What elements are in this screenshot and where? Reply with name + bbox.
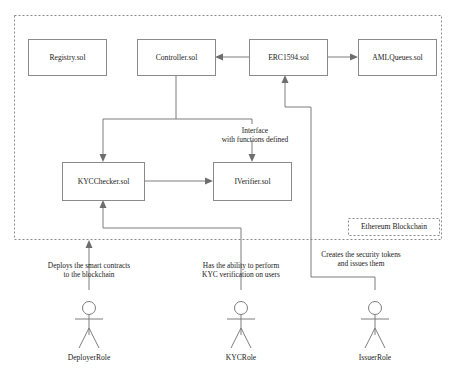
edge-label-deployer-line2: to the blockchain	[64, 270, 115, 279]
node-erc1594[interactable]: ERC1594.sol	[250, 40, 328, 76]
node-kycchecker-label: KYCChecker.sol	[78, 177, 130, 186]
edge-label-kycrole: Has the ability to perform KYC verificat…	[202, 261, 280, 279]
connector-erc1594-to-controller	[215, 54, 249, 61]
node-kycchecker[interactable]: KYCChecker.sol	[63, 163, 145, 201]
actor-kyc-label: KYCRole	[226, 353, 257, 362]
edge-label-interface-line2: with functions defined	[222, 135, 289, 144]
node-erc1594-label: ERC1594.sol	[268, 53, 309, 62]
node-controller[interactable]: Controller.sol	[138, 40, 216, 76]
node-controller-label: Controller.sol	[156, 53, 198, 62]
edge-label-issuer-line2: and issues them	[338, 259, 385, 268]
actor-issuer-role[interactable]: IssuerRole	[359, 302, 392, 362]
actor-issuer-head	[369, 302, 382, 315]
connector-erc1594-to-amlqueues	[327, 54, 358, 61]
node-iverifier[interactable]: IVerifier.sol	[214, 163, 292, 201]
node-iverifier-label: IVerifier.sol	[234, 177, 270, 186]
connector-controller-bus	[100, 75, 256, 162]
node-registry-label: Registry.sol	[50, 53, 86, 62]
diagram-canvas: Ethereum Blockchain	[0, 0, 455, 372]
actor-issuer-label: IssuerRole	[359, 353, 392, 362]
edge-label-deployer-line1: Deploys the smart contracts	[48, 261, 130, 270]
architecture-diagram: Ethereum Blockchain	[0, 0, 455, 372]
actor-deployer-label: DeployerRole	[68, 353, 111, 362]
actor-deployer-head	[83, 302, 96, 315]
edge-label-deployer: Deploys the smart contracts to the block…	[48, 261, 130, 279]
node-amlqueues-label: AMLQueues.sol	[372, 53, 422, 62]
edge-label-kycrole-line2: KYC verification on users	[202, 270, 280, 279]
actor-kyc-role[interactable]: KYCRole	[226, 302, 257, 362]
node-registry[interactable]: Registry.sol	[29, 40, 107, 76]
actor-deployer-role[interactable]: DeployerRole	[68, 302, 111, 362]
edge-label-issuer: Creates the security tokens and issues t…	[321, 250, 401, 268]
ethereum-blockchain-tag-label: Ethereum Blockchain	[361, 222, 427, 231]
node-amlqueues[interactable]: AMLQueues.sol	[359, 40, 437, 76]
connector-kycchecker-to-iverifier	[144, 178, 213, 185]
edge-label-interface-line1: Interface	[242, 126, 269, 135]
edge-label-interface: Interface with functions defined	[222, 126, 289, 144]
edge-label-issuer-line1: Creates the security tokens	[321, 250, 401, 259]
edge-label-kycrole-line1: Has the ability to perform	[203, 261, 280, 270]
actor-kyc-head	[235, 302, 248, 315]
